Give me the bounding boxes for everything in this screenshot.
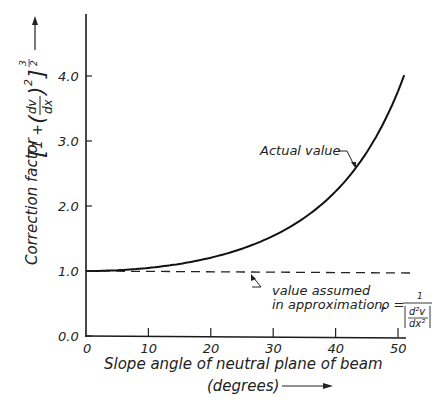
dv: dv	[25, 98, 39, 114]
y-tick-label: 2.0	[58, 199, 79, 214]
paren-open: (	[24, 114, 49, 124]
x-tick-label: 20	[203, 341, 220, 356]
actual-value-curve	[86, 75, 404, 271]
chart: 0.01.02.03.04.0 01020304050 Correction f…	[0, 0, 447, 406]
x-axis-title: Slope angle of neutral plane of beam	[104, 355, 383, 373]
y-tick-label: 0.0	[58, 329, 79, 344]
rho-den-den: dx²	[409, 318, 425, 329]
bracket-close: ]	[24, 69, 49, 79]
rho-symbol: ρ =	[381, 297, 404, 312]
y-ticks: 0.01.02.03.04.0	[58, 69, 92, 344]
rho-numerator: 1	[417, 291, 423, 301]
x-tick-label: 40	[328, 341, 345, 356]
rho-den-num: d²v	[409, 306, 426, 317]
y-tick-label: 4.0	[58, 69, 79, 84]
exp-den: 2	[29, 60, 39, 66]
actual-value-label: Actual value	[259, 143, 341, 158]
x-axis-arrow-icon	[282, 383, 333, 389]
x-tick-label: 0	[83, 341, 91, 356]
square: 2	[22, 79, 35, 86]
y-tick-label: 3.0	[58, 134, 79, 149]
one-plus: 1 +	[29, 124, 45, 149]
x-tick-label: 30	[265, 341, 282, 356]
x-tick-label: 10	[140, 341, 157, 356]
actual-value-leader-icon	[338, 151, 356, 169]
x-ticks: 01020304050	[83, 328, 407, 356]
dx: dx	[41, 98, 55, 114]
paren-close: )	[24, 86, 49, 97]
x-axis	[85, 336, 406, 338]
exp-num: 3	[18, 60, 28, 66]
y-axis-arrow-icon	[32, 16, 38, 50]
rho-formula: ρ = 1 d²v dx²	[381, 291, 432, 329]
approx-label-line2: in approximation,	[272, 297, 387, 312]
x-axis-units: (degrees)	[207, 377, 279, 395]
y-tick-label: 1.0	[58, 264, 79, 279]
approx-leader-icon	[251, 274, 261, 287]
approximation-dashed-line	[86, 271, 411, 273]
approx-label-line1: value assumed	[272, 283, 371, 298]
x-tick-label: 50	[390, 341, 407, 356]
